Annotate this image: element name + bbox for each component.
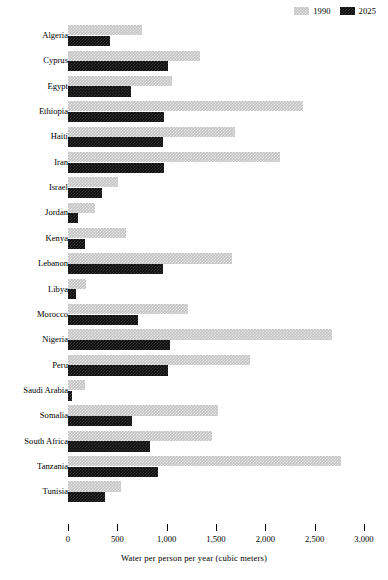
- category-label: Lebanon: [0, 258, 68, 269]
- category-label: Somalia: [0, 410, 68, 421]
- x-axis-tick: [68, 524, 69, 531]
- bar-1990: [68, 228, 126, 238]
- chart-row: South Africa: [0, 430, 388, 455]
- bar-2025: [68, 137, 163, 147]
- category-label: Saudi Arabia: [0, 385, 68, 396]
- x-axis-tick: [265, 524, 266, 531]
- bar-1990: [68, 456, 341, 466]
- category-label: Iran: [0, 157, 68, 168]
- chart-row: Peru: [0, 354, 388, 379]
- chart-row: Jordan: [0, 201, 388, 226]
- plot-area: AlgeriaCyprusEgyptEthiopiaHaitiIranIsrae…: [0, 24, 388, 524]
- category-label: Algeria: [0, 30, 68, 41]
- bar-2025: [68, 86, 131, 96]
- bar-1990: [68, 380, 85, 390]
- category-label: Libya: [0, 284, 68, 295]
- bar-2025: [68, 188, 102, 198]
- bar-1990: [68, 431, 212, 441]
- bar-1990: [68, 152, 280, 162]
- bar-2025: [68, 416, 132, 426]
- bar-1990: [68, 253, 232, 263]
- legend-entry-1990: 1990: [294, 6, 330, 16]
- bar-1990: [68, 127, 235, 137]
- bar-1990: [68, 405, 218, 415]
- bar-2025: [68, 264, 163, 274]
- bar-2025: [68, 467, 158, 477]
- bar-2025: [68, 492, 105, 502]
- bar-1990: [68, 304, 188, 314]
- chart-row: Nigeria: [0, 328, 388, 353]
- bar-2025: [68, 239, 85, 249]
- chart-row: Tunisia: [0, 480, 388, 505]
- x-axis-tick: [167, 524, 168, 531]
- chart-row: Ethiopia: [0, 100, 388, 125]
- bar-1990: [68, 481, 121, 491]
- chart-row: Algeria: [0, 24, 388, 49]
- bar-1990: [68, 177, 118, 187]
- chart-row: Iran: [0, 151, 388, 176]
- bar-1990: [68, 25, 142, 35]
- bar-1990: [68, 329, 332, 339]
- bar-2025: [68, 365, 168, 375]
- chart-row: Saudi Arabia: [0, 379, 388, 404]
- chart-legend: 1990 2025: [294, 6, 376, 16]
- chart-row: Israel: [0, 176, 388, 201]
- chart-row: Libya: [0, 278, 388, 303]
- bar-2025: [68, 441, 150, 451]
- bar-1990: [68, 279, 86, 289]
- legend-swatch-1990-icon: [294, 7, 309, 15]
- chart-row: Egypt: [0, 75, 388, 100]
- category-label: South Africa: [0, 436, 68, 447]
- x-axis: Water per person per year (cubic meters)…: [0, 524, 388, 580]
- x-axis-title: Water per person per year (cubic meters): [0, 553, 388, 563]
- x-axis-tick-label: 3,000: [354, 534, 373, 544]
- bar-2025: [68, 213, 78, 223]
- bar-2025: [68, 163, 164, 173]
- category-label: Morocco: [0, 309, 68, 320]
- category-label: Haiti: [0, 131, 68, 142]
- x-axis-tick-label: 1,000: [157, 534, 176, 544]
- x-axis-tick-label: 500: [111, 534, 124, 544]
- bar-1990: [68, 101, 303, 111]
- chart-row: Lebanon: [0, 252, 388, 277]
- chart-row: Somalia: [0, 404, 388, 429]
- bar-2025: [68, 340, 170, 350]
- category-label: Tanzania: [0, 461, 68, 472]
- legend-swatch-2025-icon: [340, 7, 355, 15]
- bar-1990: [68, 51, 200, 61]
- category-label: Nigeria: [0, 334, 68, 345]
- bar-2025: [68, 36, 110, 46]
- x-axis-tick-label: 1,500: [206, 534, 225, 544]
- chart-row: Cyprus: [0, 49, 388, 74]
- category-label: Peru: [0, 360, 68, 371]
- legend-entry-2025: 2025: [340, 6, 376, 16]
- x-axis-tick: [364, 524, 365, 531]
- category-label: Egypt: [0, 81, 68, 92]
- bar-2025: [68, 289, 76, 299]
- bar-1990: [68, 76, 172, 86]
- bar-1990: [68, 355, 250, 365]
- x-axis-tick: [315, 524, 316, 531]
- category-label: Ethiopia: [0, 106, 68, 117]
- category-label: Israel: [0, 182, 68, 193]
- chart-row: Haiti: [0, 125, 388, 150]
- category-label: Tunisia: [0, 486, 68, 497]
- category-label: Jordan: [0, 207, 68, 218]
- x-axis-tick-label: 2,000: [256, 534, 275, 544]
- bar-2025: [68, 315, 138, 325]
- x-axis-tick: [117, 524, 118, 531]
- x-axis-tick: [216, 524, 217, 531]
- category-label: Kenya: [0, 233, 68, 244]
- bar-2025: [68, 391, 72, 401]
- bar-1990: [68, 203, 95, 213]
- x-axis-tick-label: 2,500: [305, 534, 324, 544]
- chart-row: Kenya: [0, 227, 388, 252]
- legend-label-2025: 2025: [359, 6, 376, 16]
- category-label: Cyprus: [0, 55, 68, 66]
- x-axis-tick-label: 0: [66, 534, 70, 544]
- bar-2025: [68, 61, 168, 71]
- chart-row: Tanzania: [0, 455, 388, 480]
- bar-2025: [68, 112, 164, 122]
- legend-label-1990: 1990: [313, 6, 330, 16]
- bar-chart: 1990 2025 AlgeriaCyprusEgyptEthiopiaHait…: [0, 0, 388, 580]
